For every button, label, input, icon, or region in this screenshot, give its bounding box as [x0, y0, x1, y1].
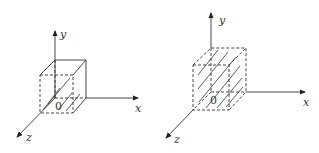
- x-label: x: [303, 96, 310, 109]
- y-label: y: [59, 28, 67, 41]
- hatch-lines: [198, 50, 243, 108]
- origin-label: 0: [55, 100, 62, 113]
- diagram-canvas: y x z 0 y x z 0: [0, 0, 319, 153]
- right-figure: [166, 13, 305, 138]
- origin-label: 0: [210, 94, 217, 107]
- cube-dashed-edges: [193, 48, 246, 110]
- z-label: z: [25, 131, 32, 144]
- y-label: y: [218, 14, 226, 27]
- x-label: x: [135, 102, 142, 115]
- left-figure: [17, 31, 138, 137]
- z-axis: [17, 98, 55, 137]
- z-label: z: [173, 133, 180, 146]
